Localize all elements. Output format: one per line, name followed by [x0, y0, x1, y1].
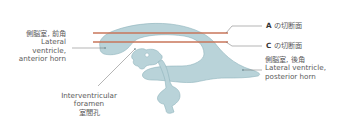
lateral-ventricle-shape [100, 23, 260, 82]
interthalamic-adhesion [145, 53, 149, 57]
leader-section-a [226, 26, 262, 33]
section-a-text: の切断面 [274, 21, 302, 30]
label-interventricular-foramen: Interventricular foramen 室間孔 [55, 92, 123, 117]
label-foramen-jp: 室間孔 [55, 109, 123, 117]
ventricle-diagram: 側脳室, 前角 Lateral ventricle, anterior horn… [0, 0, 338, 138]
label-section-a: A の切断面 [266, 22, 302, 30]
leader-dot-anterior [104, 47, 106, 49]
label-anterior-horn: 側脳室, 前角 Lateral ventricle, anterior horn [4, 30, 66, 63]
label-section-c: C の切断面 [266, 42, 302, 50]
section-c-letter: C [266, 41, 271, 50]
third-ventricle-shape [132, 49, 162, 69]
leader-dot-posterior [242, 69, 244, 71]
section-a-letter: A [266, 21, 272, 30]
label-anterior-horn-en3: anterior horn [4, 55, 66, 63]
label-posterior-horn-en2: posterior horn [265, 73, 326, 81]
leader-foramen [98, 49, 135, 86]
leader-section-c [226, 42, 262, 46]
leader-dot-foramen [134, 48, 136, 50]
section-c-text: の切断面 [274, 41, 302, 50]
label-posterior-horn: 側脳室, 後角 Lateral ventricle, posterior hor… [265, 56, 326, 81]
